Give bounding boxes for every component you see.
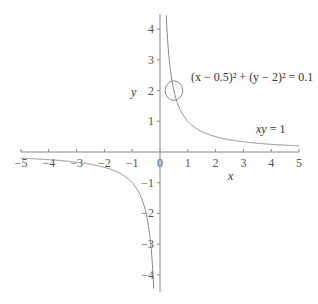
x-tick-label: −4 bbox=[42, 156, 55, 170]
y-tick-label: 4 bbox=[148, 22, 154, 36]
hyperbola-equation-label: xy = 1 bbox=[255, 122, 285, 136]
x-tick-label: −2 bbox=[98, 156, 111, 170]
x-tick-label: 4 bbox=[268, 156, 274, 170]
y-tick-label: 1 bbox=[148, 114, 154, 128]
x-tick-label: 1 bbox=[185, 156, 191, 170]
x-tick-label: 0 bbox=[157, 156, 163, 170]
y-tick-label: 2 bbox=[148, 84, 154, 98]
hyperbola-branch-negative bbox=[21, 158, 154, 289]
x-tick-label: 2 bbox=[213, 156, 219, 170]
x-axis-label: x bbox=[227, 169, 234, 183]
y-tick-label: −4 bbox=[141, 268, 154, 282]
plot-area: −5−4−3−2−10123454321−1−2−3−4xy(x − 0.5)²… bbox=[0, 0, 318, 304]
circle-equation-label: (x − 0.5)² + (y − 2)² = 0.1 bbox=[191, 70, 313, 84]
y-tick-label: −1 bbox=[141, 176, 154, 190]
y-tick-label: 3 bbox=[148, 53, 154, 67]
y-axis-label: y bbox=[130, 85, 137, 99]
x-tick-label: 3 bbox=[240, 156, 246, 170]
y-tick-label: −3 bbox=[141, 237, 154, 251]
x-tick-label: −1 bbox=[126, 156, 139, 170]
x-tick-label: 5 bbox=[296, 156, 302, 170]
